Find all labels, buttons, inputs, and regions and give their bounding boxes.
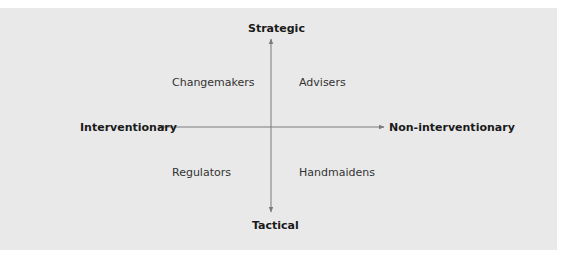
quadrant-top-right: Advisers [299, 76, 346, 89]
axis-label-right: Non-interventionary [389, 121, 515, 134]
quadrant-bottom-right: Handmaidens [299, 166, 375, 179]
quadrant-bottom-left: Regulators [172, 166, 231, 179]
axis-label-left: Interventionary [80, 121, 177, 134]
axis-label-bottom: Tactical [252, 219, 299, 232]
quadrant-top-left: Changemakers [172, 76, 255, 89]
axis-label-top: Strategic [248, 22, 305, 35]
